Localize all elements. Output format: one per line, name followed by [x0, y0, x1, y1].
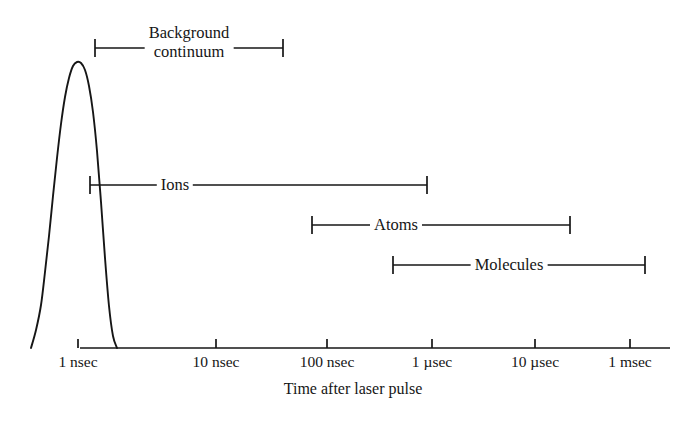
range-label-line1-background-continuum: Background [149, 23, 230, 42]
axis-caption: Time after laser pulse [284, 381, 422, 398]
axis-tick-label-4: 10 µsec [511, 354, 559, 370]
axis-tick-label-1: 10 nsec [193, 354, 240, 370]
axis-tick-label-3: 1 µsec [412, 354, 452, 370]
range-label-line1-atoms: Atoms [374, 215, 418, 234]
axis-tick-label-5: 1 msec [608, 354, 651, 370]
axis-tick-label-0: 1 nsec [58, 354, 97, 370]
intensity-curve-path [31, 62, 117, 348]
range-label-background-continuum: Backgroundcontinuum [145, 23, 234, 62]
time-axis [78, 339, 670, 348]
range-label-line1-ions: Ions [161, 175, 189, 194]
range-label-molecules: Molecules [471, 256, 548, 273]
range-label-atoms: Atoms [370, 216, 422, 233]
emission-timing-figure: 1 nsec10 nsec100 nsec1 µsec10 µsec1 msec… [0, 0, 697, 431]
range-label-line1-molecules: Molecules [475, 255, 544, 274]
axis-tick-label-2: 100 nsec [300, 354, 355, 370]
range-label-ions: Ions [157, 176, 193, 193]
range-label-line2-background-continuum: continuum [154, 42, 225, 61]
intensity-curve [31, 62, 117, 348]
range-brackets [90, 39, 645, 274]
